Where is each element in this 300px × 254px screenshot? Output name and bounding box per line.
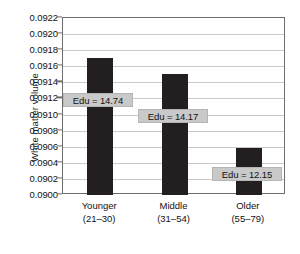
x-axis-tick-label: Middle(31–54) (157, 199, 190, 225)
x-axis-category-range: (21–30) (82, 212, 117, 225)
y-axis-tick-label: 0.0902 (2, 172, 58, 183)
bar (87, 58, 113, 195)
y-axis-tick-label: 0.0914 (2, 76, 58, 87)
gridline (63, 50, 284, 51)
y-axis-tick-label: 0.0904 (2, 156, 58, 167)
y-axis-tick-label: 0.0910 (2, 108, 58, 119)
x-axis-category-name: Middle (160, 200, 188, 211)
y-axis-tick-label: 0.0908 (2, 124, 58, 135)
x-axis-category-range: (31–54) (157, 212, 190, 225)
white-matter-volume-bar-chart: White matter volume 0.09220.09200.09180.… (0, 0, 300, 254)
x-axis-category-range: (55–79) (231, 212, 264, 225)
education-annotation-label: Edu = 14.17 (138, 109, 208, 123)
x-axis-tick-label: Younger(21–30) (82, 199, 117, 225)
y-axis-tick-label: 0.0920 (2, 28, 58, 39)
y-axis-tick-label: 0.0922 (2, 12, 58, 23)
y-axis-tick-label: 0.0912 (2, 92, 58, 103)
bar (162, 74, 188, 195)
x-axis-tick-label: Older(55–79) (231, 199, 264, 225)
x-axis-category-name: Younger (82, 200, 117, 211)
y-axis-tick-label: 0.0916 (2, 60, 58, 71)
education-annotation-label: Edu = 12.15 (212, 167, 282, 181)
y-axis-tick-label: 0.0900 (2, 189, 58, 200)
y-axis-tick-label: 0.0918 (2, 44, 58, 55)
y-axis-tick-label: 0.0906 (2, 140, 58, 151)
education-annotation-label: Edu = 14.74 (63, 93, 133, 107)
gridline (63, 34, 284, 35)
x-axis-category-name: Older (236, 200, 259, 211)
